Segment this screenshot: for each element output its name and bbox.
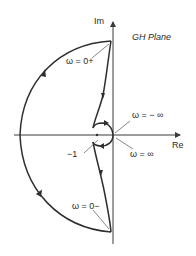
lower-branch — [93, 142, 111, 232]
leader-omega-pos-inf — [116, 138, 133, 149]
label-omega-neg-inf: ω = − ∞ — [132, 111, 163, 120]
label-critical-point: −1 — [67, 150, 77, 159]
leader-critical-point — [84, 140, 98, 153]
leader-omega-neg-inf — [115, 121, 130, 133]
upper-branch — [93, 41, 111, 128]
label-omega-pos-inf: ω = ∞ — [130, 150, 154, 159]
label-omega-zero-minus: ω = 0− — [72, 202, 100, 211]
real-axis-label: Re — [172, 141, 184, 150]
critical-point-marker — [96, 134, 98, 136]
imaginary-axis-label: Im — [94, 17, 104, 26]
leader-omega-zero-plus — [92, 44, 109, 58]
leader-omega-zero-minus — [93, 210, 109, 229]
plane-title: GH Plane — [132, 33, 171, 42]
label-omega-zero-plus: ω = 0+ — [66, 57, 94, 66]
arrow-loop-bottom — [99, 143, 104, 149]
